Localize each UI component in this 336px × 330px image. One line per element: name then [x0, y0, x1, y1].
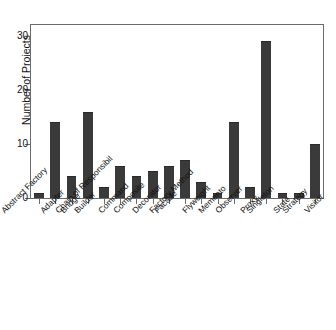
y-tick-label: 10	[6, 139, 28, 149]
bar	[261, 41, 271, 198]
x-tick-mark	[39, 199, 40, 204]
y-tick-label: 20	[6, 85, 28, 95]
bar	[310, 144, 320, 198]
y-tick-label: 30	[6, 31, 28, 41]
plot-area	[31, 25, 323, 198]
bar-chart: Number of Projects 0102030 Abstract Fact…	[0, 0, 336, 330]
bar	[34, 193, 44, 198]
